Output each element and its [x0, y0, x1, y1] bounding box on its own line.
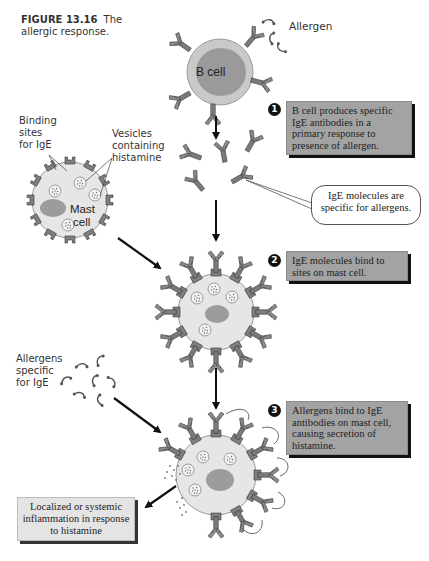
figure-caption: FIGURE 13.16The allergic response.: [21, 14, 161, 38]
step-1-box: B cell produces specific IgE antibodies …: [286, 101, 412, 155]
figure-number: FIGURE 13.16: [21, 14, 98, 25]
allergens-specific-label: Allergens specific for IgE: [16, 353, 63, 389]
step-3-badge: 3: [268, 404, 281, 417]
vesicles-label: Vesicles containing histamine: [112, 128, 165, 164]
allergen-label: Allergen: [289, 20, 332, 32]
ige-specificity-callout: IgE molecules are specific for allergens…: [311, 185, 421, 225]
mast-cell-unbound: [27, 157, 113, 243]
free-ige-molecules: [179, 129, 265, 195]
arrow-to-outcome: [146, 486, 176, 507]
binding-sites-label: Binding sites for IgE: [19, 115, 57, 151]
allergen-icon: [261, 16, 287, 55]
step-2-box: IgE molecules bind to sites on mast cell…: [286, 251, 408, 281]
allergens-group: [59, 354, 116, 407]
step-3-box: Allergens bind to IgE antibodies on mast…: [286, 401, 408, 455]
callout-pointer: [246, 180, 312, 209]
arrow-mast-to-step-2: [118, 238, 160, 268]
step-1-badge: 1: [268, 103, 281, 116]
allergic-response-figure: FIGURE 13.16The allergic response. B cel…: [0, 0, 429, 561]
mast-cell-label: Mast cell: [70, 203, 95, 229]
inflammation-outcome-box: Localized or systemic inflammation in re…: [17, 497, 135, 541]
step-2-badge: 2: [268, 254, 281, 267]
arrow-allergens-to-step-3: [114, 398, 160, 432]
mast-cell-degranulating: [157, 409, 288, 538]
b-cell-label: B cell: [196, 66, 225, 79]
mast-cell-bound-ige: [155, 251, 277, 373]
